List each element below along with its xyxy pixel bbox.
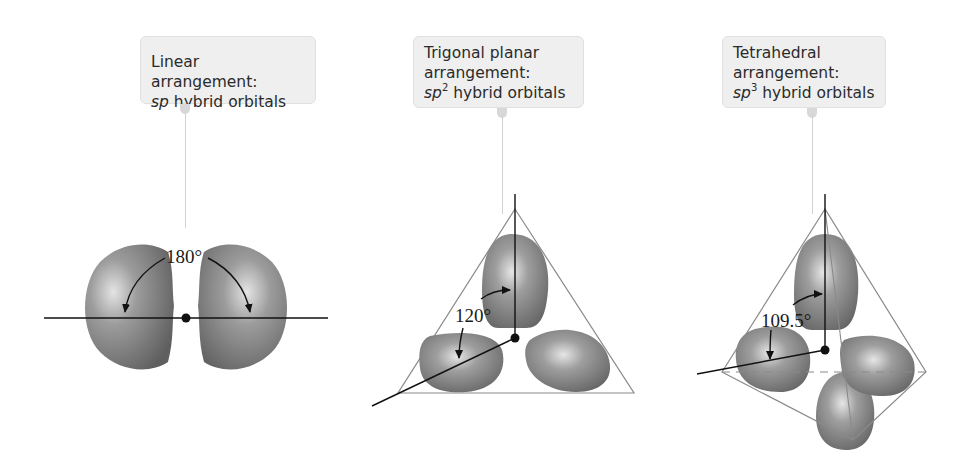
angle-label-180: 180° <box>166 246 202 267</box>
orbital-lobe-left <box>85 245 174 370</box>
nucleus-dot <box>182 314 191 323</box>
trigonal-planar-geometry: 120° <box>372 194 634 406</box>
orbital-lobe-right <box>198 245 287 370</box>
nucleus-dot <box>511 334 520 343</box>
angle-label-120: 120° <box>455 305 491 326</box>
tetrahedral-geometry: 109.5° <box>697 194 926 450</box>
angle-label-109-5: 109.5° <box>761 310 811 331</box>
linear-geometry: 180° <box>44 245 328 370</box>
hybrid-orbital-figure: 180° 120° 109.5° <box>0 0 968 461</box>
orbital-lobe-lower-right <box>525 330 610 392</box>
nucleus-dot <box>821 346 830 355</box>
orbital-lobe-lower-left <box>419 333 503 392</box>
orbital-lobe-right <box>840 336 915 396</box>
